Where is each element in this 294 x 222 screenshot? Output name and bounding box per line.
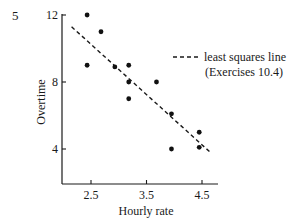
data-point <box>154 80 159 85</box>
legend: least squares line (Exercises 10.4) <box>173 50 286 79</box>
x-tick-label: 3.5 <box>139 188 154 202</box>
scatter-chart: 5 4812 2.53.54.5 Overtime Hourly rate le… <box>0 0 294 222</box>
y-tick-label: 8 <box>52 75 58 89</box>
data-point <box>126 80 131 85</box>
data-point <box>169 147 174 152</box>
data-points <box>85 13 202 152</box>
data-point <box>112 65 117 70</box>
dashed-regression-line <box>72 27 211 153</box>
x-axis-label: Hourly rate <box>119 204 174 218</box>
least-squares-line <box>72 27 211 153</box>
legend-label-line2: (Exercises 10.4) <box>205 65 283 79</box>
data-point <box>85 13 90 18</box>
data-point <box>126 63 131 68</box>
data-point <box>169 111 174 116</box>
y-axis-label: Overtime <box>34 79 48 124</box>
y-tick-label: 12 <box>46 8 58 22</box>
legend-label-line1: least squares line <box>204 50 286 64</box>
y-tick-label: 4 <box>52 142 58 156</box>
data-point <box>85 63 90 68</box>
data-point <box>197 130 202 135</box>
data-point <box>197 145 202 150</box>
y-axis-ticks: 4812 <box>46 8 66 156</box>
panel-label: 5 <box>12 8 19 23</box>
x-axis-ticks: 2.53.54.5 <box>84 180 210 202</box>
x-tick-label: 4.5 <box>195 188 210 202</box>
x-tick-label: 2.5 <box>84 188 99 202</box>
data-point <box>99 29 104 34</box>
axes <box>62 14 218 184</box>
data-point <box>126 96 131 101</box>
